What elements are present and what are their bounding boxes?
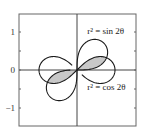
y-tick-label: 1	[11, 27, 16, 37]
y-tick-label: 0	[11, 65, 16, 75]
label-cos-curve: r² = cos 2θ	[87, 82, 125, 92]
y-tick-label: −1	[5, 103, 15, 113]
label-sin-curve: r² = sin 2θ	[87, 26, 124, 36]
polar-plot: 10−1 r² = sin 2θ r² = cos 2θ	[0, 0, 144, 137]
